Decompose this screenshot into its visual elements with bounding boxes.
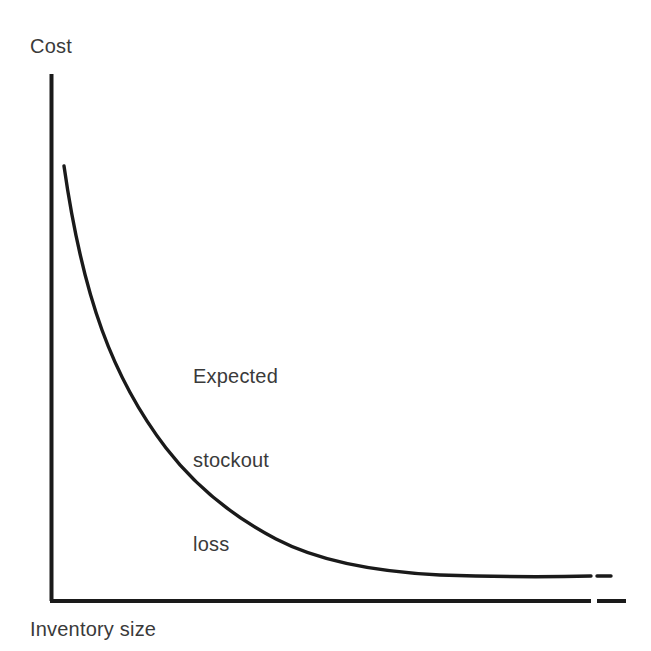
x-axis-title: Inventory size xyxy=(30,617,156,641)
curve-annotation-line-1: Expected xyxy=(193,362,278,390)
curve-annotation-line-3: loss xyxy=(193,530,278,558)
curve-annotation: Expected stockout loss xyxy=(193,306,278,614)
figure-root: Cost Inventory size Expected stockout lo… xyxy=(0,0,651,651)
curve-annotation-line-2: stockout xyxy=(193,446,278,474)
chart-plot-area xyxy=(0,0,651,651)
y-axis-title: Cost xyxy=(30,34,72,58)
expected-stockout-loss-curve xyxy=(64,166,591,577)
